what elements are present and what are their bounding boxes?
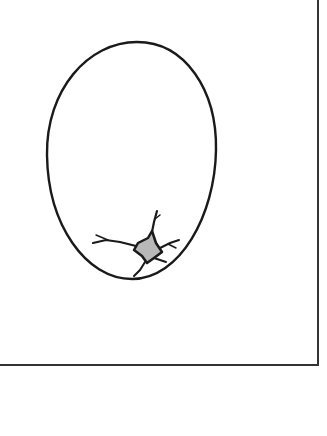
- egg-outline: [47, 42, 216, 279]
- egg-diagram: [0, 0, 327, 436]
- crack-hole: [134, 231, 162, 263]
- crack-branch-lower-right: [154, 258, 166, 262]
- crack-twig: [168, 244, 176, 248]
- crack-twig: [96, 235, 108, 240]
- crack-branch-left: [93, 240, 136, 246]
- crack-branch-up: [152, 211, 157, 232]
- crack-branch-down: [134, 262, 145, 276]
- frame: [0, 0, 319, 366]
